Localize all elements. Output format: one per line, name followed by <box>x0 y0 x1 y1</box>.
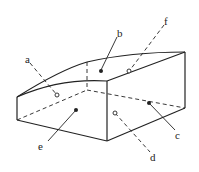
label-b: b <box>117 27 123 39</box>
leader-b <box>101 37 117 70</box>
label-c: c <box>175 129 180 141</box>
diagram-canvas: a b f c d e <box>0 0 199 172</box>
label-e: e <box>38 140 43 152</box>
leader-d <box>115 113 150 152</box>
label-a: a <box>25 53 30 65</box>
leader-e <box>48 110 76 141</box>
right-face-bottom-edge <box>107 108 185 141</box>
leader-f <box>130 25 164 70</box>
top-back-curve <box>17 62 87 97</box>
hidden-bottom-left-edge <box>17 90 87 120</box>
marker-b-filled <box>99 69 103 73</box>
marker-c-filled <box>147 101 151 105</box>
label-d: d <box>150 151 156 163</box>
leader-c <box>149 103 175 130</box>
hidden-bottom-right-edge <box>87 90 185 108</box>
marker-e-filled <box>74 108 78 112</box>
front-face-bottom-edge <box>17 120 107 141</box>
marker-d-open <box>113 111 117 115</box>
label-f: f <box>164 15 168 27</box>
marker-a-open <box>55 93 59 97</box>
marker-f-open <box>127 69 131 73</box>
